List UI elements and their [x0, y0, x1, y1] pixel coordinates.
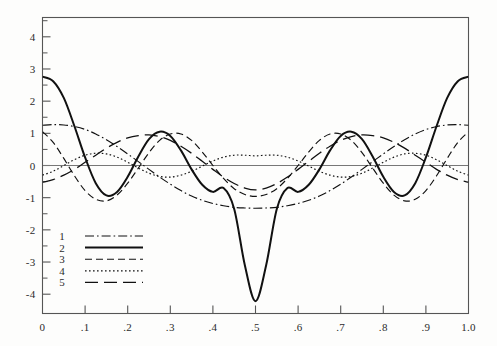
legend-label-1: 1 [59, 230, 65, 242]
line-chart: 43210-1-2-3-4 0.1.2.3.4.5.6.7.8.91.0 123… [0, 0, 497, 346]
y-tick-label: -1 [26, 192, 36, 204]
legend-label-3: 3 [59, 253, 65, 265]
x-tick-label: .1 [81, 321, 90, 333]
x-tick-label: .9 [421, 321, 430, 333]
x-tick-label: .6 [294, 321, 303, 333]
y-tick-label: 3 [30, 63, 36, 75]
x-tick-label: .5 [251, 321, 260, 333]
y-tick-label: -3 [26, 256, 36, 268]
x-tick-label: .4 [208, 321, 217, 333]
y-tick-label: 2 [30, 95, 36, 107]
x-tick-label: .3 [166, 321, 175, 333]
y-tick-label: 1 [30, 127, 36, 139]
y-tick-label: -2 [26, 224, 36, 236]
y-tick-label: -4 [26, 288, 36, 300]
x-tick-label: .8 [379, 321, 388, 333]
x-tick-label: .7 [336, 321, 345, 333]
y-tick-label: 0 [30, 160, 36, 172]
legend-label-2: 2 [59, 242, 65, 254]
legend-label-4: 4 [59, 265, 65, 277]
y-tick-label: 4 [30, 31, 36, 43]
legend-label-5: 5 [59, 276, 65, 288]
x-tick-label: .2 [123, 321, 132, 333]
x-tick-label: 1.0 [461, 321, 476, 333]
figure-container: 43210-1-2-3-4 0.1.2.3.4.5.6.7.8.91.0 123… [0, 0, 497, 346]
x-tick-label: 0 [40, 321, 46, 333]
chart-background [0, 0, 497, 346]
